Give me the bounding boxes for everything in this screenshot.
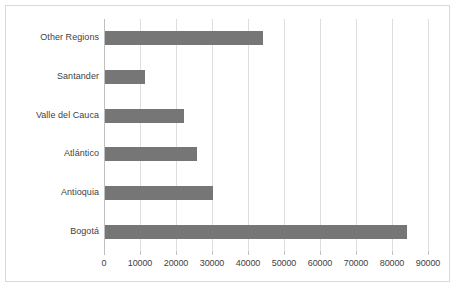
x-tick-mark <box>284 251 285 255</box>
x-tick-label: 40000 <box>236 258 261 268</box>
bar <box>105 109 184 123</box>
category-axis-labels: BogotáAntioquiaAtlánticoValle del CaucaS… <box>6 19 99 251</box>
category-label: Santander <box>57 71 99 81</box>
category-label: Other Regions <box>40 32 99 42</box>
plot-area: 0100002000030000400005000060000700008000… <box>104 19 428 251</box>
bar <box>105 70 145 84</box>
x-tick-label: 80000 <box>380 258 405 268</box>
x-tick-mark <box>176 251 177 255</box>
bar <box>105 147 197 161</box>
bar-chart-figure: BogotáAntioquiaAtlánticoValle del CaucaS… <box>5 5 450 282</box>
gridline <box>320 19 321 251</box>
category-label: Valle del Cauca <box>36 110 99 120</box>
gridline <box>248 19 249 251</box>
gridline <box>356 19 357 251</box>
x-tick-label: 50000 <box>272 258 297 268</box>
x-tick-label: 70000 <box>344 258 369 268</box>
x-tick-mark <box>320 251 321 255</box>
category-label: Atlántico <box>64 148 99 158</box>
gridline <box>140 19 141 251</box>
x-tick-mark <box>248 251 249 255</box>
x-tick-mark <box>392 251 393 255</box>
x-tick-label: 90000 <box>416 258 441 268</box>
x-tick-mark <box>140 251 141 255</box>
value-axis-line <box>104 19 105 251</box>
gridline <box>428 19 429 251</box>
x-tick-label: 0 <box>102 258 107 268</box>
category-label: Antioquia <box>61 187 99 197</box>
x-tick-label: 60000 <box>308 258 333 268</box>
x-tick-label: 20000 <box>164 258 189 268</box>
x-tick-label: 10000 <box>128 258 153 268</box>
bar <box>105 31 263 45</box>
x-tick-label: 30000 <box>200 258 225 268</box>
bar <box>105 225 407 239</box>
x-tick-mark <box>356 251 357 255</box>
gridline <box>212 19 213 251</box>
x-tick-mark <box>428 251 429 255</box>
category-label: Bogotá <box>70 226 99 236</box>
bar <box>105 186 213 200</box>
gridline <box>176 19 177 251</box>
x-tick-mark <box>104 251 105 255</box>
gridline <box>284 19 285 251</box>
gridline <box>392 19 393 251</box>
x-tick-mark <box>212 251 213 255</box>
